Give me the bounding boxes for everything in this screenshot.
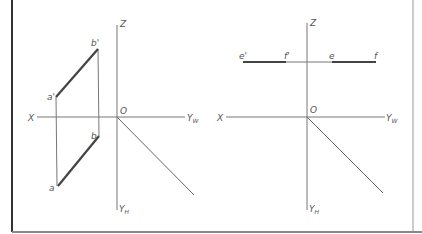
point-f-prime-label: f' xyxy=(284,51,290,61)
projector-a xyxy=(56,97,57,186)
point-e-prime-label: e' xyxy=(239,51,247,61)
point-a-label: a xyxy=(49,183,55,193)
x-axis-label: X xyxy=(27,113,35,123)
diagram-ef: X Z O YW YH e' f' e f xyxy=(216,18,399,215)
front-projection-ab xyxy=(56,49,98,97)
z-axis-label: Z xyxy=(309,18,317,28)
projection-drawing: X Z O YW YH a' b' a b X Z O YW YH e' f' … xyxy=(0,0,422,234)
diagram-ab: X Z O YW YH a' b' a b xyxy=(27,19,200,215)
origin-label: O xyxy=(120,106,127,116)
45-degree-line xyxy=(117,117,194,195)
top-projection-ab xyxy=(58,136,99,186)
z-axis-label: Z xyxy=(119,19,127,29)
yh-axis-label: YH xyxy=(309,204,320,215)
point-a-prime-label: a' xyxy=(47,92,55,102)
point-e-label: e xyxy=(329,51,335,61)
projector-b xyxy=(98,49,99,136)
yw-axis-label: YW xyxy=(187,113,200,124)
45-degree-line xyxy=(307,117,383,193)
x-axis-label: X xyxy=(216,113,224,123)
drawing-frame: X Z O YW YH a' b' a b X Z O YW YH e' f' … xyxy=(0,0,422,234)
point-f-label: f xyxy=(374,51,379,61)
yw-axis-label: YW xyxy=(386,113,399,124)
point-b-label: b xyxy=(91,131,97,141)
yh-axis-label: YH xyxy=(119,204,130,215)
point-b-prime-label: b' xyxy=(91,38,99,48)
origin-label: O xyxy=(310,105,317,115)
